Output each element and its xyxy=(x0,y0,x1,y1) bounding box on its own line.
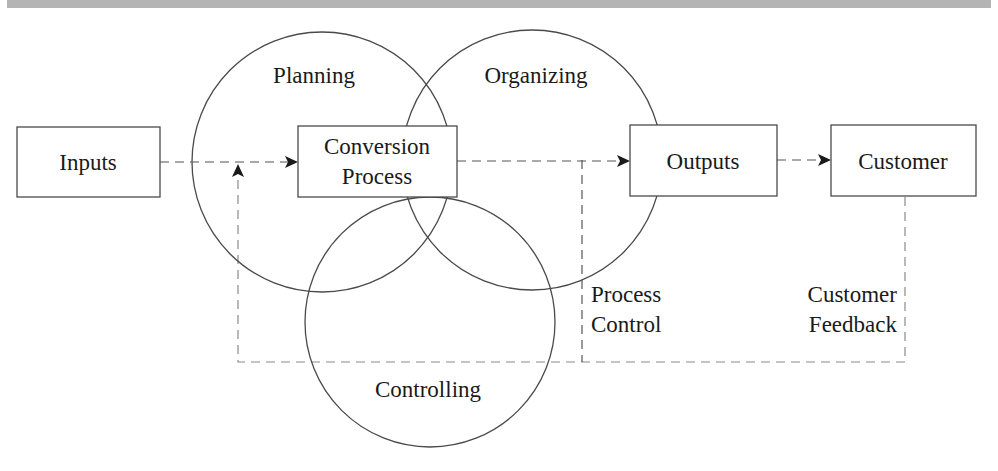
customer-feedback-label-line1: Customer xyxy=(808,282,898,307)
arrow-to-outputs-icon xyxy=(617,155,630,167)
organizing-label: Organizing xyxy=(484,63,588,88)
diagram-canvas: Inputs Conversion Process Outputs Custom… xyxy=(0,0,998,471)
arrow-to-customer-icon xyxy=(818,154,831,166)
process-control-label-line2: Control xyxy=(591,312,661,337)
process-control-label-line1: Process xyxy=(591,282,661,307)
conversion-label-line1: Conversion xyxy=(324,134,431,159)
customer-feedback-line xyxy=(238,180,905,362)
outputs-label: Outputs xyxy=(667,149,740,174)
arrow-feedback-up-icon xyxy=(232,164,244,177)
inputs-label: Inputs xyxy=(59,150,117,175)
planning-label: Planning xyxy=(273,63,355,88)
process-diagram: Inputs Conversion Process Outputs Custom… xyxy=(0,0,998,471)
customer-feedback-label-line2: Feedback xyxy=(809,312,898,337)
customer-label: Customer xyxy=(858,149,948,174)
controlling-label: Controlling xyxy=(375,377,482,402)
conversion-label-line2: Process xyxy=(342,164,412,189)
